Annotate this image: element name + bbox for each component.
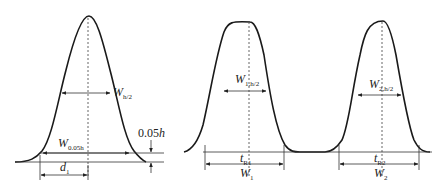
label-w-half: Wh/2: [113, 85, 132, 101]
label-w-005h: W0.05h: [58, 136, 84, 152]
left-panel: Wh/2 W0.05h 0.05h d1: [15, 16, 165, 180]
right-panel: W1,h/2 W2,h/2 tR1 W1 tR2 W2: [184, 21, 432, 182]
label-005h: 0.05h: [138, 126, 165, 140]
peak-curve-left: [15, 16, 146, 162]
label-w2-half: W2,h/2: [369, 77, 394, 93]
label-w1: W1: [240, 166, 254, 182]
label-tr2: tR2: [374, 151, 386, 167]
label-tr1: tR1: [240, 151, 252, 167]
label-w1-half: W1,h/2: [235, 72, 260, 88]
peak-width-diagram: Wh/2 W0.05h 0.05h d1 W1,h/2 W2,h/2 tR1 W…: [0, 0, 439, 188]
label-w2: W2: [374, 166, 388, 182]
